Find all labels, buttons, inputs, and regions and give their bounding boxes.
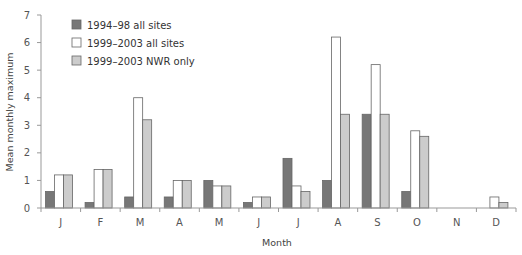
y-axis-ticks: 01234567	[24, 10, 41, 214]
bar	[490, 197, 499, 208]
legend-swatch	[72, 20, 81, 29]
bar	[292, 186, 301, 208]
bar	[143, 120, 152, 208]
legend-label: 1999–2003 NWR only	[87, 56, 195, 67]
bar	[222, 186, 231, 208]
bar	[380, 114, 389, 208]
legend: 1994–98 all sites1999–2003 all sites1999…	[72, 20, 195, 67]
bar	[420, 136, 429, 208]
bar	[103, 169, 112, 208]
x-axis-label: Month	[262, 237, 292, 248]
bar	[252, 197, 261, 208]
bar	[341, 114, 350, 208]
x-tick-label: M	[136, 217, 145, 228]
bar	[362, 114, 371, 208]
bar	[213, 186, 222, 208]
y-tick-label: 2	[24, 147, 30, 158]
y-tick-label: 0	[24, 203, 30, 214]
x-tick-label: J	[256, 217, 260, 228]
bar	[301, 191, 310, 208]
bar	[164, 197, 173, 208]
y-tick-label: 4	[24, 92, 30, 103]
legend-swatch	[72, 38, 81, 47]
x-tick-label: A	[334, 217, 341, 228]
x-tick-label: A	[176, 217, 183, 228]
y-tick-label: 3	[24, 120, 30, 131]
y-tick-label: 5	[24, 65, 30, 76]
y-tick-label: 6	[24, 37, 30, 48]
x-tick-label: N	[453, 217, 460, 228]
bar	[182, 180, 191, 208]
bar	[402, 191, 411, 208]
bar	[499, 202, 508, 208]
legend-label: 1994–98 all sites	[87, 20, 172, 31]
bar-chart: 01234567 JFMAMJJASOND Month Mean monthly…	[0, 0, 522, 255]
bar	[204, 180, 213, 208]
x-tick-label: O	[413, 217, 421, 228]
bar	[55, 175, 64, 208]
bar	[64, 175, 73, 208]
bar	[85, 202, 94, 208]
x-tick-label: S	[374, 217, 380, 228]
bar	[411, 131, 420, 208]
bar	[261, 197, 270, 208]
bar	[94, 169, 103, 208]
x-tick-label: D	[492, 217, 500, 228]
y-tick-label: 1	[24, 175, 30, 186]
x-tick-label: F	[97, 217, 103, 228]
bar	[173, 180, 182, 208]
bar	[46, 191, 55, 208]
x-axis-ticks: JFMAMJJASOND	[41, 208, 516, 228]
bar	[323, 180, 332, 208]
bar	[283, 158, 292, 208]
y-axis-label: Mean monthly maximum	[4, 53, 15, 172]
x-tick-label: M	[215, 217, 224, 228]
x-tick-label: J	[58, 217, 62, 228]
y-tick-label: 7	[24, 10, 30, 21]
x-tick-label: J	[296, 217, 300, 228]
bar	[332, 37, 341, 208]
legend-label: 1999–2003 all sites	[87, 38, 184, 49]
bar	[125, 197, 134, 208]
bar	[134, 98, 143, 208]
bar	[371, 65, 380, 208]
bar	[243, 202, 252, 208]
legend-swatch	[72, 56, 81, 65]
